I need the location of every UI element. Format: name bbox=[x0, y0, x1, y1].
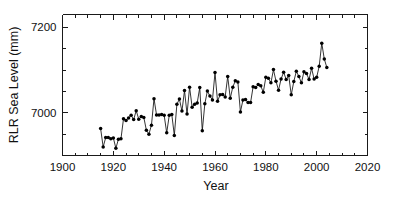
data-point bbox=[274, 79, 278, 83]
data-point bbox=[114, 146, 118, 150]
data-point bbox=[183, 89, 187, 93]
data-point bbox=[142, 116, 146, 120]
data-point bbox=[300, 81, 304, 85]
data-point bbox=[295, 70, 299, 74]
data-point bbox=[119, 137, 123, 141]
data-point bbox=[290, 93, 294, 97]
data-point bbox=[201, 129, 205, 133]
chart-canvas: 1900192019401960198020002020 70007200 Ye… bbox=[0, 0, 395, 197]
data-point bbox=[127, 116, 131, 120]
data-point bbox=[231, 85, 235, 89]
y-axis-title: RLR Sea Level (mm) bbox=[7, 27, 21, 144]
data-point bbox=[279, 77, 283, 81]
data-point bbox=[307, 78, 311, 82]
data-point bbox=[129, 114, 133, 118]
data-point bbox=[287, 74, 291, 78]
data-point bbox=[292, 80, 296, 84]
plot-frame bbox=[63, 15, 368, 156]
data-point bbox=[208, 94, 212, 98]
data-point bbox=[297, 75, 301, 79]
y-axis-minor-ticks bbox=[63, 49, 368, 156]
data-point bbox=[190, 105, 194, 109]
data-point bbox=[206, 89, 210, 93]
data-point bbox=[239, 110, 243, 114]
data-point bbox=[325, 66, 329, 70]
x-axis-minor-ticks bbox=[75, 15, 355, 156]
data-point bbox=[221, 93, 225, 97]
data-point bbox=[170, 113, 174, 117]
x-tick-label: 2020 bbox=[355, 161, 381, 173]
data-point bbox=[317, 64, 321, 68]
x-axis-major-ticks bbox=[63, 15, 368, 156]
data-point bbox=[229, 97, 233, 101]
y-axis-major-ticks bbox=[63, 27, 368, 112]
data-point bbox=[259, 84, 263, 88]
data-point bbox=[315, 76, 319, 80]
x-axis-title: Year bbox=[203, 179, 228, 193]
data-point bbox=[277, 88, 281, 92]
data-point bbox=[310, 67, 314, 71]
axis-frame bbox=[63, 15, 368, 156]
data-point bbox=[269, 81, 273, 85]
x-tick-label: 1900 bbox=[50, 161, 76, 173]
data-point bbox=[145, 129, 149, 133]
data-point bbox=[272, 68, 276, 72]
series-markers bbox=[99, 41, 329, 150]
data-point bbox=[198, 86, 202, 90]
x-tick-label: 1960 bbox=[202, 161, 228, 173]
data-point bbox=[137, 117, 141, 121]
y-tick-label: 7200 bbox=[31, 21, 57, 33]
data-point bbox=[99, 127, 103, 131]
data-point bbox=[132, 118, 136, 122]
data-point bbox=[134, 109, 138, 113]
data-point bbox=[203, 102, 207, 106]
data-point bbox=[152, 97, 156, 101]
data-point bbox=[147, 132, 151, 136]
x-axis-tick-labels: 1900192019401960198020002020 bbox=[50, 161, 381, 173]
x-tick-label: 1920 bbox=[101, 161, 127, 173]
data-point bbox=[282, 70, 286, 74]
data-point bbox=[180, 109, 184, 113]
data-point bbox=[267, 76, 271, 80]
data-point bbox=[188, 85, 192, 89]
data-point bbox=[216, 99, 220, 103]
data-point bbox=[213, 71, 217, 75]
data-point bbox=[236, 80, 240, 84]
data-point bbox=[150, 123, 154, 127]
data-point bbox=[124, 119, 128, 123]
data-point bbox=[284, 78, 288, 82]
data-point bbox=[162, 114, 166, 118]
data-point bbox=[175, 102, 179, 106]
x-tick-label: 1940 bbox=[151, 161, 177, 173]
data-point bbox=[323, 57, 327, 61]
y-axis-tick-labels: 70007200 bbox=[31, 21, 57, 118]
data-point bbox=[185, 112, 189, 116]
y-tick-label: 7000 bbox=[31, 107, 57, 119]
data-point bbox=[178, 97, 182, 101]
data-point bbox=[173, 134, 177, 138]
x-tick-label: 2000 bbox=[304, 161, 330, 173]
data-point bbox=[249, 101, 253, 105]
data-point bbox=[244, 98, 248, 102]
data-point bbox=[226, 75, 230, 79]
data-point bbox=[223, 95, 227, 99]
data-point bbox=[262, 91, 266, 95]
data-point bbox=[165, 131, 169, 135]
data-point bbox=[305, 72, 309, 76]
data-point bbox=[195, 101, 199, 105]
data-point bbox=[211, 98, 215, 102]
data-point bbox=[101, 145, 105, 149]
x-tick-label: 1980 bbox=[253, 161, 279, 173]
data-point bbox=[320, 41, 324, 45]
data-point bbox=[254, 86, 257, 90]
series-line bbox=[101, 43, 327, 148]
data-series-layer bbox=[99, 41, 329, 150]
data-point bbox=[112, 136, 116, 140]
sea-level-chart: 1900192019401960198020002020 70007200 Ye… bbox=[0, 0, 395, 197]
